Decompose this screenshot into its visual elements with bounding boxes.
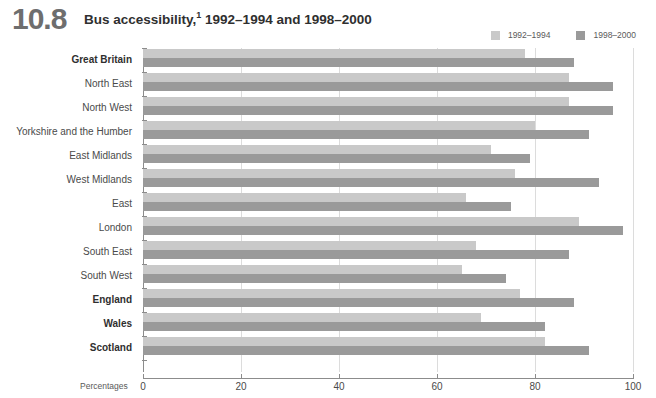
- y-axis-tick: [142, 216, 147, 217]
- legend-item: 1998–2000: [576, 30, 636, 40]
- bar-group: [143, 120, 633, 144]
- bar-group: [143, 72, 633, 96]
- bar: [143, 154, 530, 163]
- bar: [143, 82, 613, 91]
- bar: [143, 58, 574, 67]
- bar: [143, 130, 589, 139]
- y-axis-tick: [142, 120, 147, 121]
- x-axis-tick: [437, 374, 438, 379]
- bar: [143, 346, 589, 355]
- y-axis-tick: [142, 336, 147, 337]
- chart-title: Bus accessibility,1 1992–1994 and 1998–2…: [84, 10, 372, 27]
- bar: [143, 226, 623, 235]
- bar: [143, 169, 515, 178]
- chart-number: 10.8: [12, 2, 66, 36]
- bar-group: [143, 312, 633, 336]
- category-label: South East: [83, 240, 132, 264]
- y-axis-tick: [142, 192, 147, 193]
- chart-title-period: 1992–1994 and 1998–2000: [201, 12, 371, 27]
- bar: [143, 274, 506, 283]
- x-axis-units-label: Percentages: [80, 381, 128, 391]
- bar: [143, 217, 579, 226]
- bar: [143, 193, 466, 202]
- bar-group: [143, 264, 633, 288]
- bar-group: [143, 336, 633, 360]
- bar-group: [143, 144, 633, 168]
- bar: [143, 106, 613, 115]
- y-axis-tick: [142, 264, 147, 265]
- bar: [143, 121, 535, 130]
- category-label: Wales: [103, 312, 132, 336]
- bar: [143, 49, 525, 58]
- y-axis-tick: [142, 288, 147, 289]
- category-label: Great Britain: [71, 48, 132, 72]
- y-axis-tick: [142, 360, 147, 361]
- x-axis-line: [143, 378, 634, 379]
- bar: [143, 298, 574, 307]
- x-axis-tick-label: 20: [235, 381, 246, 392]
- x-axis-tick-label: 0: [140, 381, 146, 392]
- bar: [143, 145, 491, 154]
- category-label: England: [93, 288, 132, 312]
- x-axis-tick-label: 40: [333, 381, 344, 392]
- bar-group: [143, 168, 633, 192]
- bar: [143, 202, 511, 211]
- chart-legend: 1992–19941998–2000: [491, 30, 636, 40]
- category-label: East: [112, 192, 132, 216]
- bars-container: [143, 48, 633, 372]
- x-axis-tick-label: 80: [529, 381, 540, 392]
- bar: [143, 289, 520, 298]
- category-label: London: [99, 216, 132, 240]
- bar-group: [143, 216, 633, 240]
- y-axis-tick: [142, 96, 147, 97]
- bar: [143, 265, 462, 274]
- plot-area: Great BritainNorth EastNorth WestYorkshi…: [0, 48, 656, 378]
- category-label: North East: [85, 72, 132, 96]
- category-label: West Midlands: [67, 168, 132, 192]
- bar: [143, 250, 569, 259]
- y-axis-tick: [142, 48, 147, 49]
- category-label: North West: [82, 96, 132, 120]
- chart-title-text: Bus accessibility,: [84, 12, 196, 27]
- y-axis-tick: [142, 168, 147, 169]
- legend-swatch-1998-2000: [576, 31, 585, 40]
- x-axis-tick: [241, 374, 242, 379]
- bar: [143, 178, 599, 187]
- y-axis-tick: [142, 144, 147, 145]
- y-axis-tick: [142, 240, 147, 241]
- bar-group: [143, 288, 633, 312]
- x-axis-tick-label: 100: [625, 381, 642, 392]
- bar: [143, 313, 481, 322]
- category-label: Scotland: [90, 336, 132, 360]
- x-axis-tick: [143, 374, 144, 379]
- y-axis-tick: [142, 72, 147, 73]
- bar-group: [143, 192, 633, 216]
- bar-group: [143, 96, 633, 120]
- legend-label: 1992–1994: [508, 30, 551, 40]
- category-axis-labels: Great BritainNorth EastNorth WestYorkshi…: [0, 48, 138, 372]
- y-axis-tick: [142, 312, 147, 313]
- bar-group: [143, 48, 633, 72]
- gridline-100: [633, 48, 634, 372]
- bar: [143, 337, 545, 346]
- bar: [143, 322, 545, 331]
- legend-item: 1992–1994: [491, 30, 551, 40]
- x-axis-tick: [633, 374, 634, 379]
- x-axis-tick-label: 60: [431, 381, 442, 392]
- x-axis-tick: [535, 374, 536, 379]
- category-label: Yorkshire and the Humber: [16, 120, 132, 144]
- bar: [143, 241, 476, 250]
- bar-group: [143, 240, 633, 264]
- x-axis-tick: [339, 374, 340, 379]
- legend-label: 1998–2000: [593, 30, 636, 40]
- bar: [143, 73, 569, 82]
- legend-swatch-1992-1994: [491, 31, 500, 40]
- bar: [143, 97, 569, 106]
- category-label: South West: [80, 264, 132, 288]
- category-label: East Midlands: [69, 144, 132, 168]
